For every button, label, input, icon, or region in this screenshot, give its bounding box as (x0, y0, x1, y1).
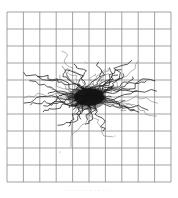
figure-caption: · · · · · · · · · · · · (0, 186, 178, 194)
trajectory-core (68, 86, 106, 110)
trajectory-plot (0, 0, 178, 198)
